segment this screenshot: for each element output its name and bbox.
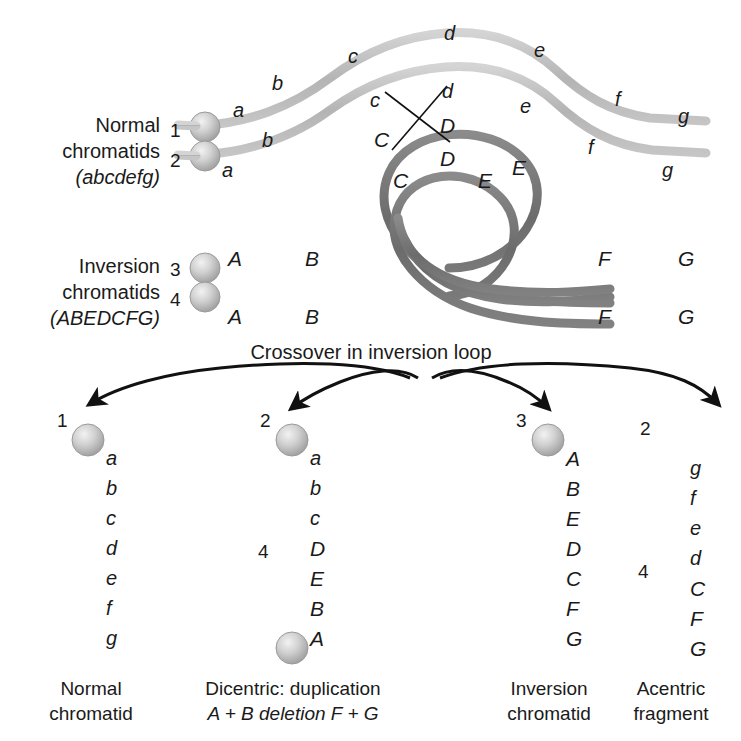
product-1-gene-e: e: [106, 566, 117, 590]
gene-label-c2-f: f: [588, 135, 594, 159]
inversion-crossover-figure: Normal chromatids (abcdefg) Inversion ch…: [0, 0, 741, 741]
gene-label-loop-E-outer: E: [512, 155, 526, 181]
gene-label-loop-D-outer: D: [440, 113, 455, 139]
product-1-centromere: [72, 424, 104, 456]
product-3-gene-F: F: [566, 596, 579, 622]
product-3-gene-B: B: [566, 476, 580, 502]
gene-label-c4-B: B: [305, 304, 319, 330]
product-2-number-second: 4: [258, 540, 269, 563]
gene-label-c1-c: c: [348, 44, 358, 68]
gene-label-c1-f: f: [615, 87, 621, 111]
product-4-number: 2: [640, 417, 651, 440]
gene-label-c1-d: d: [444, 21, 455, 45]
product-2-gene-B: B: [310, 596, 324, 622]
product-3-gene-D: D: [566, 536, 581, 562]
gene-label-c2-e: e: [520, 94, 531, 118]
product-3-number: 3: [516, 409, 527, 432]
product-2-gene-a: a: [310, 446, 321, 470]
product-4-gene-g: g: [690, 456, 701, 480]
product-1-gene-g: g: [106, 626, 117, 650]
gene-label-c2-a: a: [222, 158, 233, 182]
product-3-gene-E: E: [566, 506, 580, 532]
chromatid-number-4: 4: [170, 288, 181, 311]
gene-label-c3-G: G: [678, 246, 694, 272]
product-2-caption: Dicentric: duplication A + B deletion F …: [178, 676, 408, 726]
product-3-centromere: [532, 424, 564, 456]
normal-caption-line1: Normal: [20, 112, 160, 138]
normal-caption-line3: (abcdefg): [20, 164, 160, 190]
chromatid-1-stub: [178, 125, 196, 126]
normal-chromatids-caption: Normal chromatids (abcdefg): [20, 112, 160, 190]
product-2-caption-line1: Dicentric: duplication: [178, 676, 408, 701]
gene-label-loop-C-inner: C: [393, 168, 408, 194]
arrow-to-product-2: [292, 371, 418, 408]
gene-label-c4-G: G: [678, 304, 694, 330]
inversion-chromatids-caption: Inversion chromatids (ABEDCFG): [4, 253, 160, 331]
arrow-to-product-4: [440, 363, 718, 404]
product-1-gene-b: b: [106, 476, 117, 500]
product-4-caption-line1: Acentric: [604, 676, 738, 701]
product-1-gene-d: d: [106, 536, 117, 560]
gene-label-c2-b: b: [262, 128, 273, 152]
product-4-gene-G: G: [690, 636, 706, 662]
product-3-gene-G: G: [566, 626, 582, 652]
product-3-gene-C: C: [566, 566, 581, 592]
chromatid-number-3: 3: [170, 258, 181, 281]
product-2-gene-b: b: [310, 476, 321, 500]
product-2-caption-line2: A + B deletion F + G: [178, 701, 408, 726]
product-4-gene-e: e: [690, 516, 701, 540]
product-4-gene-d: d: [690, 546, 701, 570]
product-4-gene-F: F: [690, 606, 703, 632]
arrow-to-product-1: [90, 363, 410, 404]
product-4-caption-line2: fragment: [604, 701, 738, 726]
product-1-gene-a: a: [106, 446, 117, 470]
chromatid-number-1: 1: [170, 119, 181, 142]
product-3-caption: Inversion chromatid: [476, 676, 622, 726]
inversion-caption-line1: Inversion: [4, 253, 160, 279]
product-4-gene-C: C: [690, 576, 705, 602]
inversion-caption-line3: (ABEDCFG): [4, 305, 160, 331]
normal-caption-line2: chromatids: [20, 138, 160, 164]
gene-label-c3-F: F: [598, 246, 611, 272]
product-2-centromere-upper: [276, 424, 308, 456]
gene-label-c3-B: B: [305, 246, 319, 272]
product-2-number: 2: [260, 409, 271, 432]
product-3-caption-line2: chromatid: [476, 701, 622, 726]
product-2-gene-D: D: [310, 536, 325, 562]
gene-label-c3-A: A: [228, 246, 242, 272]
gene-label-c2-c: c: [370, 88, 380, 112]
product-2-gene-c: c: [310, 506, 320, 530]
product-4-number-second: 4: [638, 560, 649, 583]
gene-label-c1-b: b: [272, 71, 283, 95]
gene-label-c1-e: e: [534, 38, 545, 62]
product-1-gene-c: c: [106, 506, 116, 530]
gene-label-c4-A: A: [228, 304, 242, 330]
gene-label-loop-D-inner: D: [440, 146, 455, 172]
product-2-gene-E: E: [310, 566, 324, 592]
product-3-caption-line1: Inversion: [476, 676, 622, 701]
product-3-gene-A: A: [566, 446, 580, 472]
product-4-gene-f: f: [690, 486, 696, 510]
gene-label-c1-a: a: [233, 98, 244, 122]
gene-label-c2-g: g: [662, 158, 673, 182]
chromatid-number-2: 2: [170, 149, 181, 172]
product-2-gene-A: A: [310, 626, 324, 652]
product-1-gene-f: f: [106, 596, 112, 620]
product-1-caption: Normal chromatid: [18, 676, 164, 726]
inversion-caption-line2: chromatids: [4, 279, 160, 305]
gene-label-c1-g: g: [678, 104, 689, 128]
product-1-caption-line1: Normal: [18, 676, 164, 701]
product-1-caption-line2: chromatid: [18, 701, 164, 726]
gene-label-loop-C-outer: C: [374, 127, 389, 153]
gene-label-c4-F: F: [598, 304, 611, 330]
crossover-caption: Crossover in inversion loop: [211, 340, 531, 364]
chromatid-2-stub: [178, 155, 196, 156]
gene-label-c2-d: d: [442, 79, 453, 103]
gene-label-loop-E-inner: E: [478, 168, 492, 194]
product-1-number: 1: [57, 409, 68, 432]
product-4-caption: Acentric fragment: [604, 676, 738, 726]
